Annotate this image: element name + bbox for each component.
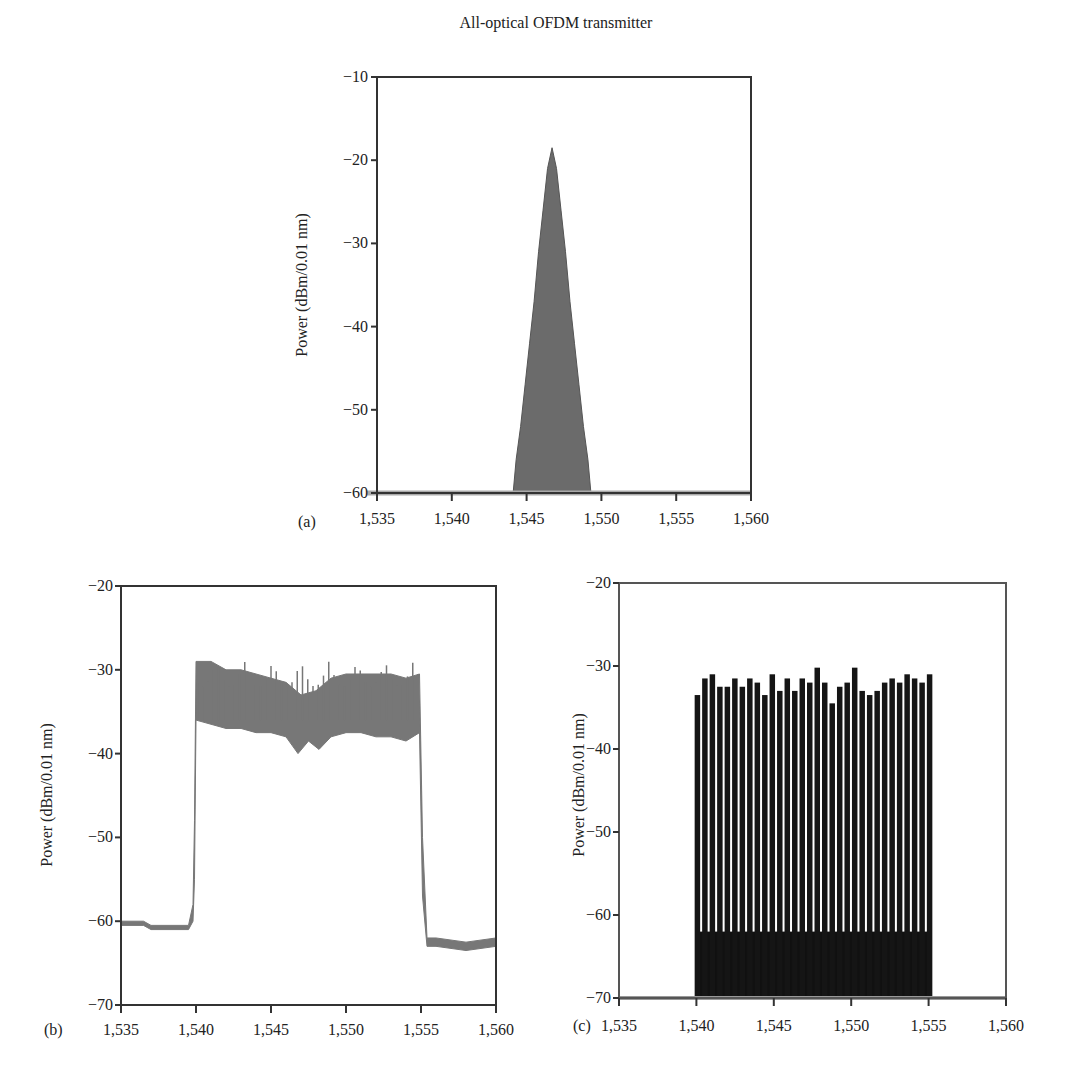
subcarrier-bar [897,683,902,998]
chart-b-plot-area [121,661,496,950]
x-tick-label: 1,560 [733,510,769,527]
y-tick-label: −10 [343,68,368,85]
x-tick-label: 1,550 [833,1017,869,1034]
y-tick-label: −20 [343,151,368,168]
subcarrier-bar [717,687,722,998]
chart-c-y-axis: −20−30−40−50−60−70 [586,574,619,1006]
y-tick-label: −40 [586,740,611,757]
x-tick-label: 1,555 [658,510,694,527]
chart-a-y-axis: −10−20−30−40−50−60 [343,68,377,501]
subcarrier-bar [912,678,917,998]
chart-b-ylabel: Power (dBm/0.01 nm) [38,723,56,867]
subcarrier-bar [852,668,857,998]
chart-a-plot-area [367,148,751,493]
x-tick-label: 1,545 [509,510,545,527]
x-tick-label: 1,555 [403,1021,439,1038]
chart-a-panel-label: (a) [298,513,316,531]
subcarrier-bar [927,674,932,998]
y-tick-label: −30 [343,234,368,251]
x-tick-label: 1,560 [478,1021,514,1038]
chart-b-panel-label: (b) [44,1021,63,1039]
chart-c-plot-area [619,668,1006,998]
y-tick-label: −20 [586,574,611,591]
subcarrier-bar [844,683,849,998]
y-tick-label: −60 [88,912,113,929]
spectrum-area [513,148,591,493]
x-tick-label: 1,545 [756,1017,792,1034]
chart-c-ylabel: Power (dBm/0.01 nm) [570,713,588,857]
chart-panel-b: −20−30−40−50−60−70 1,5351,5401,5451,5501… [0,545,540,1078]
subcarrier-bar [807,683,812,998]
chart-b-x-axis: 1,5351,5401,5451,5501,5551,560 [103,1005,514,1038]
chart-panel-c: −20−30−40−50−60−70 1,5351,5401,5451,5501… [540,545,1071,1078]
subcarrier-bar [740,687,745,998]
subcarrier-bar [815,668,820,998]
chart-a-x-axis: 1,5351,5401,5451,5501,5551,560 [359,493,769,527]
x-tick-label: 1,550 [583,510,619,527]
subcarrier-bar [695,695,700,998]
x-tick-label: 1,550 [328,1021,364,1038]
y-tick-label: −30 [88,661,113,678]
chart-a-ylabel: Power (dBm/0.01 nm) [293,213,311,357]
x-tick-label: 1,560 [988,1017,1024,1034]
y-tick-label: −50 [88,828,113,845]
x-tick-label: 1,545 [253,1021,289,1038]
chart-c-panel-label: (c) [573,1017,591,1035]
y-tick-label: −40 [88,745,113,762]
y-tick-label: −50 [586,823,611,840]
y-tick-label: −70 [586,989,611,1006]
y-tick-label: −60 [343,484,368,501]
subcarrier-bar [800,678,805,998]
subcarrier-bar [874,691,879,998]
subcarrier-bar [837,687,842,998]
x-tick-label: 1,535 [103,1021,139,1038]
subcarrier-bar [710,674,715,998]
y-tick-label: −70 [88,996,113,1013]
y-tick-label: −50 [343,401,368,418]
subcarrier-bar [822,683,827,998]
chart-b-svg: −20−30−40−50−60−70 1,5351,5401,5451,5501… [0,545,540,1078]
chart-panel-a: All-optical OFDM transmitter −10−20−30−4… [0,0,1071,545]
x-tick-label: 1,540 [434,510,470,527]
chart-c-svg: −20−30−40−50−60−70 1,5351,5401,5451,5501… [540,545,1071,1078]
subcarrier-bar [889,678,894,998]
x-tick-label: 1,535 [601,1017,637,1034]
subcarrier-bar [777,691,782,998]
x-tick-label: 1,540 [678,1017,714,1034]
y-tick-label: −40 [343,318,368,335]
x-tick-label: 1,555 [911,1017,947,1034]
y-tick-label: −30 [586,657,611,674]
subcarrier-bar [755,683,760,998]
subcarrier-bar [732,678,737,998]
subcarrier-bar [904,674,909,998]
subcarrier-bar [919,683,924,998]
x-tick-label: 1,535 [359,510,395,527]
x-tick-label: 1,540 [178,1021,214,1038]
subcarrier-bar [762,695,767,998]
subcarrier-bar [702,678,707,998]
chart-a-title: All-optical OFDM transmitter [460,14,654,32]
subcarrier-bar [829,703,834,998]
y-tick-label: −20 [88,577,113,594]
subcarrier-bar [785,678,790,998]
subcarrier-bar [882,683,887,998]
subcarrier-bar [859,691,864,998]
subcarrier-bar [792,691,797,998]
subcarrier-bar [747,678,752,998]
chart-c-x-axis: 1,5351,5401,5451,5501,5551,560 [601,998,1024,1034]
subcarrier-bar [725,687,730,998]
y-tick-label: −60 [586,906,611,923]
subcarrier-bar [770,674,775,998]
chart-b-y-axis: −20−30−40−50−60−70 [88,577,121,1013]
chart-a-svg: All-optical OFDM transmitter −10−20−30−4… [0,0,1071,545]
subcarrier-bar [867,695,872,998]
